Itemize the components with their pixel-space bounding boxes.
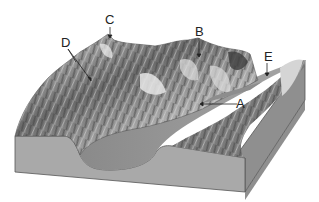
label-c: C [105,13,114,26]
terrain-block-diagram: A B C D E [0,0,319,202]
terrain-block-illustration [0,0,319,202]
label-b: B [195,25,204,38]
label-a: A [236,97,245,110]
label-d: D [61,36,70,49]
label-e: E [264,50,273,63]
